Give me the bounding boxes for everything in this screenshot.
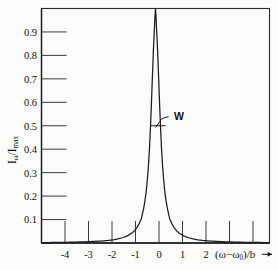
x-tick-label-4: 0 — [156, 249, 161, 260]
w-annotation: W — [151, 110, 184, 128]
x-tick-label-1: -3 — [84, 249, 93, 260]
svg-text:Iω/Imax: Iω/Imax — [6, 136, 20, 164]
xlabel-omega: ω — [219, 248, 226, 260]
y-tick-label-8: 0.9 — [24, 27, 37, 38]
y-tick-label-5: 0.6 — [24, 97, 37, 108]
y-tick-label-4: 0.5 — [24, 121, 37, 132]
x-tick-label-5: 1 — [180, 249, 185, 260]
y-tick-label-3: 0.4 — [24, 144, 38, 155]
w-label: W — [174, 110, 184, 122]
y-tick-group — [42, 32, 67, 220]
y-tick-label-2: 0.3 — [24, 168, 37, 179]
lorentzian-lineshape-chart: 0.1 0.2 0.3 0.4 0.5 0.6 0.7 0.8 0.9 -4 -… — [0, 0, 279, 270]
y-tick-label-0: 0.1 — [24, 214, 37, 225]
svg-text:(ω−ω0)/b: (ω−ω0)/b — [215, 248, 256, 262]
y-axis-title: Iω/Imax — [6, 136, 20, 164]
xlabel-slash-b: /b — [247, 248, 256, 260]
x-tick-label-group: -4 -3 -2 -1 0 1 2 — [61, 249, 209, 260]
x-tick-label-2: -2 — [108, 249, 117, 260]
y-tick-label-7: 0.8 — [24, 50, 37, 61]
x-tick-label-3: -1 — [131, 249, 140, 260]
x-axis-arrow-icon — [262, 252, 272, 257]
ylabel-i2-sub: max — [12, 136, 20, 149]
y-tick-label-6: 0.7 — [24, 74, 37, 85]
x-tick-label-0: -4 — [61, 249, 70, 260]
x-tick-group — [65, 221, 253, 243]
y-tick-label-1: 0.2 — [24, 191, 37, 202]
xlabel-omega0-base: ω — [232, 248, 239, 260]
figure-container: 0.1 0.2 0.3 0.4 0.5 0.6 0.7 0.8 0.9 -4 -… — [0, 0, 279, 270]
y-tick-label-group: 0.1 0.2 0.3 0.4 0.5 0.6 0.7 0.8 0.9 — [24, 27, 38, 226]
x-axis-title: (ω−ω0)/b — [215, 248, 272, 262]
x-tick-label-6: 2 — [203, 249, 208, 260]
